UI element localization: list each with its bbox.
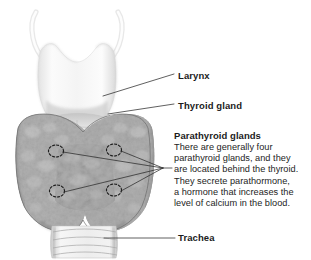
parathyroid-description-line: a hormone that increases the <box>174 187 311 198</box>
parathyroid-description-line: They secrete parathormone, <box>174 176 311 187</box>
parathyroid-description-line: are located behind the thyroid. <box>174 164 311 175</box>
anatomy-illustration <box>0 0 175 260</box>
label-parathyroid-glands: Parathyroid glands <box>174 130 311 142</box>
thyroid-cartilage <box>38 44 116 122</box>
label-thyroid-gland: Thyroid gland <box>178 100 242 111</box>
label-larynx: Larynx <box>178 70 210 81</box>
trachea <box>51 226 118 258</box>
parathyroid-description: There are generally four parathyroid gla… <box>174 142 311 209</box>
figure-canvas: Larynx Thyroid gland Parathyroid glands … <box>0 0 311 260</box>
parathyroid-description-line: level of calcium in the blood. <box>174 198 311 209</box>
label-trachea: Trachea <box>178 232 215 243</box>
parathyroid-description-line: parathyroid glands, and they <box>174 153 311 164</box>
parathyroid-annotation-block: Parathyroid glands There are generally f… <box>174 130 311 209</box>
parathyroid-description-line: There are generally four <box>174 142 311 153</box>
